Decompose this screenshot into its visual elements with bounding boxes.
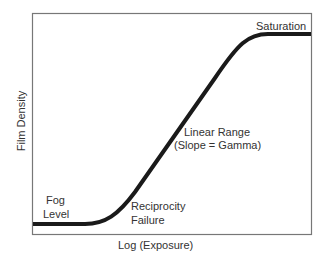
- annotation-level: Level: [43, 208, 69, 221]
- x-axis-label: Log (Exposure): [118, 239, 193, 252]
- annotation-failure: Failure: [131, 214, 165, 227]
- annotation-saturation: Saturation: [256, 20, 306, 33]
- y-axis-label: Film Density: [15, 86, 27, 156]
- annotation-reciprocity: Reciprocity: [131, 200, 185, 213]
- annotation-slope-gamma: (Slope = Gamma): [174, 139, 261, 152]
- annotation-linear-range: Linear Range: [184, 126, 250, 139]
- annotation-fog: Fog: [46, 194, 65, 207]
